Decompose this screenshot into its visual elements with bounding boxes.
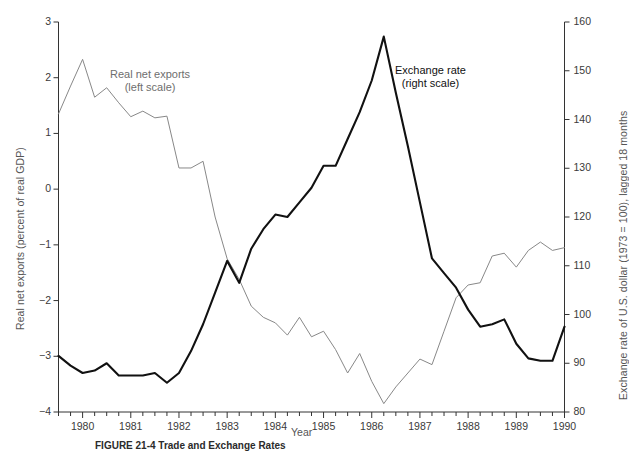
x-tick-1986: 1986 — [347, 420, 397, 432]
right-tick-110: 110 — [574, 259, 591, 271]
x-tick-1983: 1983 — [202, 420, 252, 432]
right-axis-title: Exchange rate of U.S. dollar (1973 = 100… — [617, 111, 629, 400]
left-tick-1: 1 — [20, 126, 51, 138]
x-tick-1980: 1980 — [58, 420, 108, 432]
x-tick-1989: 1989 — [491, 420, 541, 432]
series-annotation-net-exports-line2: (left scale) — [110, 81, 190, 94]
series-annotation-net-exports: Real net exports (left scale) — [110, 68, 190, 94]
left-tick-3: 3 — [20, 15, 51, 27]
right-tick-120: 120 — [574, 210, 592, 222]
series-annotation-exchange-rate: Exchange rate (right scale) — [395, 64, 466, 90]
x-tick-1982: 1982 — [154, 420, 204, 432]
x-axis-title: Year — [291, 426, 312, 438]
right-tick-130: 130 — [574, 161, 592, 173]
right-tick-80: 80 — [574, 405, 586, 417]
left-tick--4: −4 — [20, 405, 51, 417]
right-tick-90: 90 — [574, 356, 586, 368]
series-annotation-exchange-rate-line1: Exchange rate — [395, 64, 466, 77]
x-tick-1988: 1988 — [443, 420, 493, 432]
series-annotation-exchange-rate-line2: (right scale) — [395, 77, 466, 90]
x-tick-1987: 1987 — [395, 420, 445, 432]
right-tick-100: 100 — [574, 308, 592, 320]
figure-caption: FIGURE 21-4 Trade and Exchange Rates — [95, 440, 286, 451]
left-tick--3: −3 — [20, 349, 51, 361]
left-tick-2: 2 — [20, 71, 51, 83]
series-annotation-net-exports-line1: Real net exports — [110, 68, 190, 81]
x-tick-1981: 1981 — [106, 420, 156, 432]
left-axis-title: Real net exports (percent of real GDP) — [14, 147, 26, 330]
right-tick-140: 140 — [574, 113, 592, 125]
right-tick-160: 160 — [574, 15, 592, 27]
x-tick-1990: 1990 — [540, 420, 590, 432]
right-tick-150: 150 — [574, 64, 592, 76]
